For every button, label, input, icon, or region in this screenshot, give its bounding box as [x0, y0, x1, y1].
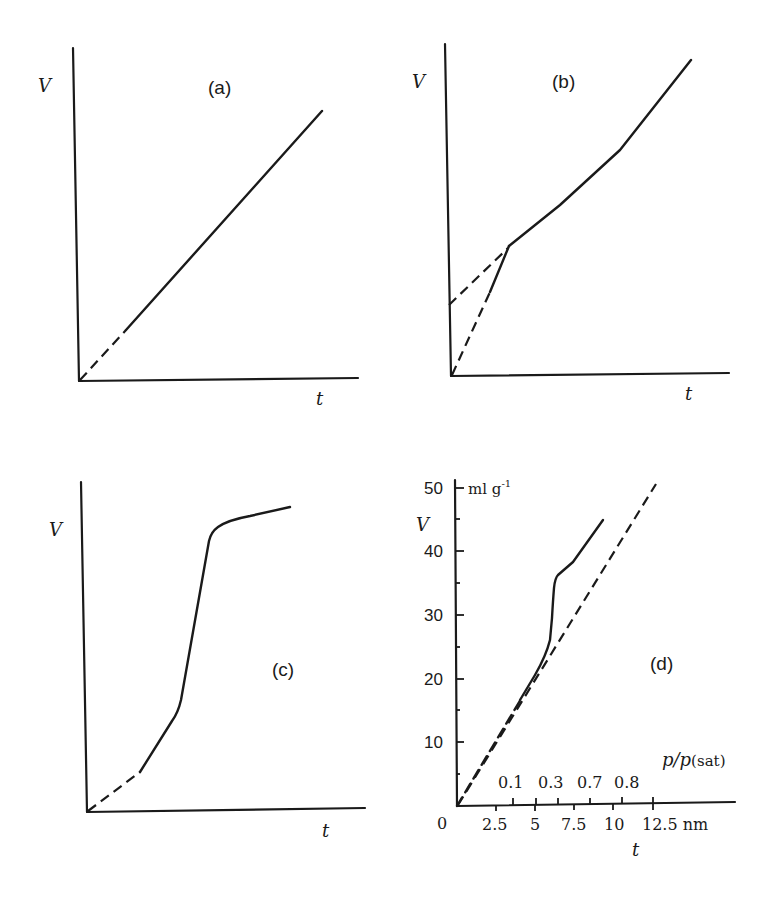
- panel-c-title: (c): [272, 659, 294, 680]
- panel-d-y-tick-50: 50: [424, 479, 443, 498]
- panel-a-line: [126, 111, 322, 330]
- panel-d-y-tick-20: 20: [424, 670, 443, 689]
- panel-d-y-axis: [455, 480, 457, 806]
- panel-a-title: (a): [208, 77, 231, 98]
- figure-canvas: V (a) t V (b) t V (c) t: [0, 0, 775, 902]
- panel-d-p-tick-0-7: 0.7: [577, 773, 602, 792]
- panel-c-x-label: t: [322, 820, 330, 841]
- panel-b: V (b) t: [412, 44, 729, 404]
- panel-b-dashed-intercept: [449, 248, 508, 305]
- panel-a-y-label: V: [38, 75, 53, 96]
- panel-d-title: (d): [650, 653, 673, 674]
- panel-d-y-unit: ml g-1: [468, 478, 511, 498]
- panel-d-p-tick-0-8: 0.8: [614, 773, 639, 792]
- panel-c-y-axis: [81, 482, 87, 812]
- panel-d-x-label: t: [632, 839, 640, 860]
- panel-b-linear-segment: [509, 60, 691, 246]
- panel-b-initial-segment: [490, 246, 509, 292]
- panel-b-y-axis: [445, 44, 451, 376]
- panel-c-curve: [140, 507, 290, 772]
- panel-b-x-label: t: [685, 383, 693, 404]
- panel-d-x-tick-12-5: 12.5 nm: [642, 815, 708, 834]
- panel-b-dashed-initial: [452, 292, 490, 375]
- panel-d-x-tick-2-5: 2.5: [482, 815, 507, 834]
- panel-c: V (c) t: [49, 482, 365, 841]
- panel-c-y-label: V: [49, 519, 64, 540]
- panel-d: 50 40 30 20 10 ml g-1 V 0 2.5 5 7.5 10 1…: [416, 478, 735, 860]
- panel-d-p-tick-0-3: 0.3: [538, 773, 563, 792]
- panel-d-y-tick-30: 30: [424, 606, 443, 625]
- panel-c-x-axis: [87, 808, 365, 812]
- panel-b-y-label: V: [412, 71, 427, 92]
- panel-d-x-tick-5: 5: [530, 815, 540, 834]
- panel-a-y-axis: [73, 48, 79, 381]
- panel-a-x-label: t: [316, 388, 324, 409]
- panel-d-y-tick-10: 10: [424, 733, 443, 752]
- panel-d-y-tick-40: 40: [424, 542, 443, 561]
- panel-b-title: (b): [552, 71, 575, 92]
- panel-a-dashed-extrapolation: [80, 330, 126, 380]
- panel-d-p-tick-0-1: 0.1: [498, 773, 523, 792]
- panel-d-pressure-axis-label: p/p(sat): [662, 749, 725, 770]
- panel-d-y-label: V: [416, 514, 431, 535]
- panel-d-isotherm-curve: [520, 520, 603, 700]
- panel-d-origin-label: 0: [437, 814, 447, 833]
- panel-c-dashed-start: [88, 772, 140, 811]
- panel-d-x-tick-7-5: 7.5: [561, 815, 586, 834]
- panel-d-x-tick-10: 10: [604, 815, 624, 834]
- panel-a: V (a) t: [38, 48, 358, 409]
- panel-d-x-axis: [457, 802, 735, 806]
- panel-a-x-axis: [79, 378, 358, 381]
- panel-b-x-axis: [451, 373, 729, 376]
